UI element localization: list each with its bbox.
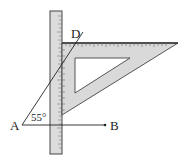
ruler [50,11,62,154]
label-b: B [110,118,119,133]
label-d: D [71,26,80,41]
point-b-dot [104,124,107,127]
set-square [62,43,178,115]
label-a: A [10,118,20,133]
geometry-figure: A B D 55° [0,0,193,159]
angle-label: 55° [31,111,46,123]
